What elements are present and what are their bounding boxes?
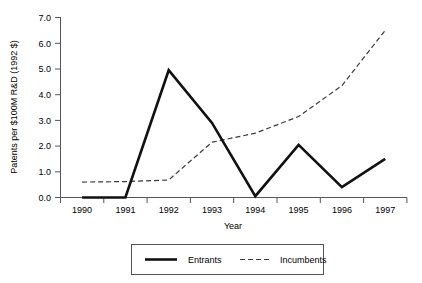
y-tick-label: 5.0 xyxy=(38,64,51,74)
chart-legend: Entrants Incumbents xyxy=(132,245,328,275)
y-tick-label: 7.0 xyxy=(38,13,51,23)
x-tick-label: 1990 xyxy=(72,205,92,215)
y-tick-marks xyxy=(55,18,61,198)
series-line-entrants xyxy=(82,70,385,197)
y-tick-label: 3.0 xyxy=(38,116,51,126)
y-tick-label: 1.0 xyxy=(38,167,51,177)
y-tick-label: 4.0 xyxy=(38,90,51,100)
x-tick-label: 1995 xyxy=(289,205,309,215)
x-tick-label: 1997 xyxy=(375,205,395,215)
y-axis-title: Patents per $100M R&D (1992 $) xyxy=(9,40,19,174)
chart-container: Patents per $100M R&D (1992 $) 0.0 1.0 2… xyxy=(0,0,422,283)
line-chart: Patents per $100M R&D (1992 $) 0.0 1.0 2… xyxy=(0,0,422,283)
legend-label-entrants: Entrants xyxy=(188,255,222,265)
y-tick-label: 6.0 xyxy=(38,39,51,49)
x-tick-label: 1991 xyxy=(115,205,135,215)
y-tick-label: 0.0 xyxy=(38,193,51,203)
y-tick-label: 2.0 xyxy=(38,141,51,151)
x-tick-label: 1992 xyxy=(159,205,179,215)
x-tick-label: 1994 xyxy=(245,205,265,215)
x-tick-label: 1993 xyxy=(202,205,222,215)
y-tick-labels: 0.0 1.0 2.0 3.0 4.0 5.0 6.0 7.0 xyxy=(38,13,51,203)
legend-label-incumbents: Incumbents xyxy=(280,255,327,265)
x-axis-title: Year xyxy=(224,221,242,231)
x-tick-label: 1996 xyxy=(332,205,352,215)
x-tick-labels: 1990 1991 1992 1993 1994 1995 1996 1997 xyxy=(72,205,395,215)
